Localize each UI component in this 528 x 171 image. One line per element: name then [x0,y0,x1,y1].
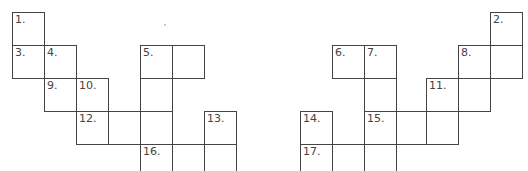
crossword-grid: 1.3.4.5.9.10.12.13.16.2.6.7.8.11.14.15.1… [0,0,528,171]
crossword-cell[interactable] [490,45,523,79]
crossword-cell[interactable] [204,144,237,171]
crossword-cell[interactable] [172,45,205,79]
crossword-cell[interactable]: 2. [490,12,523,46]
clue-number: 10. [79,80,97,92]
crossword-cell[interactable]: 14. [300,111,333,145]
crossword-cell[interactable]: 4. [44,45,77,79]
crossword-cell[interactable]: 8. [458,45,491,79]
crossword-cell[interactable] [364,144,397,171]
crossword-cell[interactable]: 3. [12,45,45,79]
clue-number: 12. [79,113,97,125]
crossword-cell[interactable] [396,111,429,145]
clue-number: 4. [47,47,58,59]
crossword-cell[interactable]: 10. [76,78,109,112]
clue-number: 17. [303,146,321,158]
crossword-cell[interactable]: 17. [300,144,333,171]
clue-number: 5. [143,47,154,59]
crossword-cell[interactable] [108,111,141,145]
crossword-cell[interactable] [140,111,173,145]
crossword-cell[interactable] [140,78,173,112]
clue-number: 2. [493,14,504,26]
crossword-cell[interactable]: 6. [332,45,365,79]
clue-number: 8. [461,47,472,59]
clue-number: 13. [207,113,225,125]
crossword-cell[interactable]: 16. [140,144,173,171]
clue-number: 11. [429,80,447,92]
clue-number: 6. [335,47,346,59]
crossword-cell[interactable]: 11. [426,78,459,112]
clue-number: 7. [367,47,378,59]
crossword-cell[interactable]: 5. [140,45,173,79]
clue-number: 15. [367,113,385,125]
crossword-cell[interactable]: 12. [76,111,109,145]
clue-number: 14. [303,113,321,125]
clue-number: 1. [15,14,26,26]
stray-dot [164,24,166,26]
crossword-cell[interactable] [426,111,459,145]
crossword-cell[interactable]: 1. [12,12,45,46]
crossword-cell[interactable] [172,144,205,171]
crossword-cell[interactable]: 15. [364,111,397,145]
clue-number: 16. [143,146,161,158]
crossword-cell[interactable] [332,144,365,171]
clue-number: 9. [47,80,58,92]
crossword-cell[interactable] [364,78,397,112]
crossword-cell[interactable] [458,78,491,112]
crossword-cell[interactable]: 13. [204,111,237,145]
clue-number: 3. [15,47,26,59]
crossword-cell[interactable]: 9. [44,78,77,112]
crossword-cell[interactable]: 7. [364,45,397,79]
